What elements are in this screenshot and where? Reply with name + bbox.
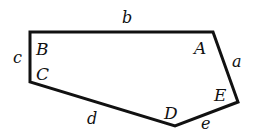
edge-label-c: c [13,48,22,67]
edge-label-a: a [232,52,242,71]
vertex-label-E: E [213,85,227,105]
edge-label-b: b [122,8,132,27]
vertex-label-C: C [36,64,49,84]
pentagon-diagram: b c a d e B C A D E [0,0,257,139]
vertex-label-D: D [163,103,178,123]
edge-label-e: e [201,114,210,133]
vertex-label-B: B [35,39,49,59]
vertex-label-A: A [192,38,206,58]
edge-label-d: d [87,109,97,128]
pentagon-shape [30,32,238,126]
